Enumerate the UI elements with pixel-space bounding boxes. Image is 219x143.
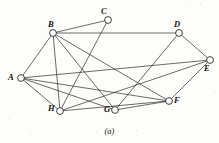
graph-vertex-G	[112, 107, 119, 114]
graph-edge-AE	[24, 60, 206, 77]
vertex-label-F: F	[174, 96, 180, 105]
graph-edge-BF	[56, 35, 166, 100]
graph-edge-FG	[118, 102, 165, 110]
graph-edge-AB	[23, 36, 51, 75]
graph-edge-BH	[53, 36, 59, 107]
graph-figure: ABCDEFGH (a)	[0, 0, 219, 143]
graph-vertex-C	[105, 17, 112, 24]
graph-edge-AG	[24, 79, 112, 109]
graph-edge-BG	[55, 36, 113, 108]
graph-edge-DE	[182, 35, 208, 58]
graph-edge-DG	[117, 36, 177, 108]
graph-vertex-A	[18, 75, 25, 82]
graph-edge-CH	[62, 23, 107, 108]
vertex-label-D: D	[174, 20, 180, 29]
graph-vertex-D	[176, 30, 183, 37]
graph-edge-BC	[56, 21, 104, 32]
vertex-label-C: C	[101, 7, 107, 16]
graph-edge-EH	[63, 61, 207, 110]
vertex-label-H: H	[48, 104, 55, 113]
graph-edge-EF	[171, 62, 207, 98]
graph-vertex-B	[50, 30, 57, 37]
vertex-label-G: G	[104, 105, 110, 114]
vertex-label-B: B	[48, 20, 54, 29]
figure-caption: (a)	[0, 126, 219, 136]
graph-vertex-F	[166, 98, 173, 105]
graph-vertex-H	[57, 108, 64, 115]
vertex-label-A: A	[8, 73, 14, 82]
graph-canvas	[0, 0, 219, 143]
graph-edge-AF	[24, 79, 165, 101]
vertex-label-E: E	[204, 64, 210, 73]
